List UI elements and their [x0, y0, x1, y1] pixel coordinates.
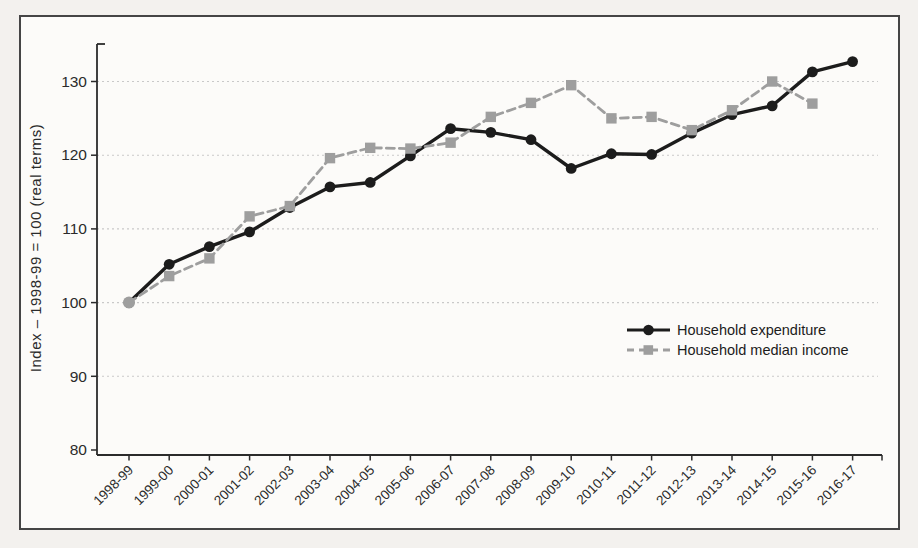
x-tick-label: 2001-02 — [211, 463, 257, 509]
data-point — [244, 211, 254, 221]
solid-line-circle-marker-icon — [626, 322, 672, 338]
data-point — [646, 112, 656, 122]
y-tick-label: 130 — [61, 73, 87, 90]
data-point — [646, 149, 657, 160]
x-tick-label: 2005-06 — [372, 463, 418, 509]
data-point — [526, 134, 537, 145]
data-point — [123, 297, 135, 309]
legend-item-household-median-income: Household median income — [626, 342, 849, 358]
data-point — [204, 253, 214, 263]
data-point — [687, 125, 697, 135]
x-tick-label: 2009-10 — [533, 463, 579, 509]
data-point — [606, 148, 617, 159]
data-point — [566, 163, 577, 174]
data-point — [445, 123, 456, 134]
data-point — [164, 259, 175, 270]
x-tick-label: 2014-15 — [734, 463, 780, 509]
y-tick-label: 110 — [62, 220, 87, 237]
y-tick-label: 100 — [61, 294, 87, 311]
data-point — [405, 143, 415, 153]
data-point — [485, 127, 496, 138]
data-point — [807, 67, 818, 78]
y-tick-label: 120 — [61, 146, 87, 163]
x-tick-label: 2016-17 — [814, 463, 860, 509]
data-point — [365, 177, 376, 188]
data-point — [847, 56, 858, 67]
data-point — [244, 226, 255, 237]
legend-label-median-income: Household median income — [677, 342, 849, 358]
x-tick-label: 2000-01 — [171, 463, 217, 509]
y-tick-label: 90 — [70, 368, 88, 385]
data-point — [325, 153, 335, 163]
x-tick-label: 1999-00 — [131, 463, 177, 509]
x-tick-label: 2002-03 — [251, 463, 297, 509]
data-point — [285, 201, 295, 211]
y-tick-label: 80 — [70, 441, 88, 458]
data-point — [526, 98, 536, 108]
data-point — [164, 271, 174, 281]
data-point — [767, 76, 777, 86]
data-point — [606, 113, 616, 123]
y-axis-title: Index – 1998-99 = 100 (real terms) — [27, 124, 44, 372]
data-point — [445, 137, 455, 147]
series-line-0 — [129, 62, 853, 303]
legend-label-expenditure: Household expenditure — [677, 322, 826, 338]
data-point — [325, 181, 336, 192]
x-tick-label: 2012-13 — [653, 463, 699, 509]
x-tick-label: 2004-05 — [332, 463, 378, 509]
data-point — [566, 80, 576, 90]
legend-item-household-expenditure: Household expenditure — [626, 322, 849, 338]
data-point — [807, 98, 817, 108]
x-tick-label: 2003-04 — [291, 462, 337, 508]
x-tick-label: 2013-14 — [693, 462, 739, 508]
x-tick-label: 2010-11 — [574, 463, 619, 508]
data-point — [767, 100, 778, 111]
data-point — [204, 241, 215, 252]
x-tick-label: 2008-09 — [492, 463, 538, 509]
data-point — [486, 112, 496, 122]
x-tick-label: 1998-99 — [90, 463, 136, 509]
x-tick-label: 2015-16 — [774, 463, 820, 509]
figure-frame: 80901001101201301998-991999-002000-01200… — [19, 15, 900, 530]
x-tick-label: 2006-07 — [412, 463, 458, 509]
data-point — [727, 105, 737, 115]
dashed-line-square-marker-icon — [626, 342, 672, 358]
chart-canvas: 80901001101201301998-991999-002000-01200… — [21, 17, 898, 528]
x-tick-label: 2007-08 — [452, 463, 498, 509]
legend: Household expenditure Household median i… — [626, 322, 849, 358]
x-tick-label: 2011-12 — [614, 463, 659, 508]
data-point — [365, 143, 375, 153]
series-line-1 — [129, 82, 812, 303]
